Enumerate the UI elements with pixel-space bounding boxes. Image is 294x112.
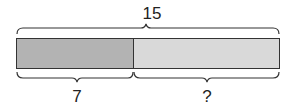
tape-diagram: 15 7 ? xyxy=(0,0,294,112)
part-unknown-brace xyxy=(134,72,279,82)
part-known xyxy=(17,39,134,69)
total-brace xyxy=(17,24,279,34)
part-known-brace xyxy=(17,72,133,82)
total-label: 15 xyxy=(132,5,172,22)
part-unknown xyxy=(134,39,280,69)
part-known-label: 7 xyxy=(57,88,97,105)
part-unknown-label: ? xyxy=(187,88,227,105)
